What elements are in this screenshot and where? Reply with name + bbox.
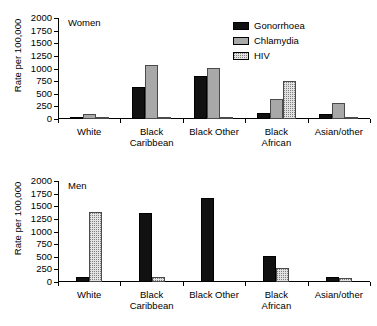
bar-chlamydia-black-other: [207, 68, 220, 120]
y-tick-label: 750: [12, 238, 52, 249]
x-axis-category-label: White: [77, 289, 101, 300]
bar-chlamydia-black-african: [270, 99, 283, 119]
bar-gonorrhoea-black-other: [194, 76, 207, 119]
x-axis-category-label: Black African: [262, 126, 292, 148]
y-tick-label: 1500: [12, 37, 52, 48]
y-tick-label: 2000: [12, 12, 52, 23]
bar-hiv-black-caribbean: [158, 117, 171, 119]
bar-gonorrhoea-black-african: [257, 113, 270, 119]
x-tick-mark: [58, 282, 59, 286]
bar-hiv-black-other: [220, 117, 233, 119]
bar-group: [245, 18, 307, 119]
bar-hiv-asian-other: [345, 117, 358, 119]
x-axis-category-label: Asian/other: [315, 289, 363, 300]
bar-gonorrhoea-asian-other: [319, 114, 332, 119]
plot-area-men: 025050075010001250150017502000: [58, 181, 370, 282]
y-tick-label: 1750: [12, 25, 52, 36]
bar-gonorrhoea-black-african: [263, 256, 276, 282]
x-axis-category-label: Black Caribbean: [130, 126, 174, 148]
y-tick-label: 0: [12, 276, 52, 287]
x-tick-mark: [370, 119, 371, 123]
panel-women: Rate per 100,000 Women Gonorrhoea Chlamy…: [0, 0, 377, 163]
y-tick-label: 250: [12, 263, 52, 274]
bar-group: [308, 181, 370, 282]
bar-chlamydia-asian-other: [332, 103, 345, 119]
bar-group: [183, 18, 245, 119]
x-tick-mark: [245, 119, 246, 123]
bar-hiv-black-caribbean: [152, 277, 165, 282]
bar-group: [58, 181, 120, 282]
y-tick-label: 0: [12, 113, 52, 124]
x-tick-mark: [370, 282, 371, 286]
bar-gonorrhoea-asian-other: [326, 277, 339, 282]
x-tick-mark: [245, 282, 246, 286]
x-axis-category-label: Black Other: [189, 126, 239, 137]
x-tick-mark: [308, 119, 309, 123]
bar-group: [120, 181, 182, 282]
bar-gonorrhoea-black-caribbean: [139, 213, 152, 282]
bar-gonorrhoea-white: [70, 117, 83, 119]
bar-hiv-asian-other: [339, 278, 352, 282]
bar-group: [245, 181, 307, 282]
bar-chlamydia-black-caribbean: [145, 65, 158, 119]
y-tick-label: 500: [12, 88, 52, 99]
bar-gonorrhoea-black-caribbean: [132, 87, 145, 119]
bar-chlamydia-white: [83, 114, 96, 119]
y-tick-label: 1000: [12, 226, 52, 237]
x-tick-mark: [120, 282, 121, 286]
bar-hiv-white: [96, 117, 109, 119]
bar-group: [120, 18, 182, 119]
bar-hiv-black-african: [276, 268, 289, 282]
y-tick-label: 1250: [12, 213, 52, 224]
x-tick-mark: [58, 119, 59, 123]
y-tick-label: 500: [12, 251, 52, 262]
bar-gonorrhoea-black-other: [201, 198, 214, 282]
bar-gonorrhoea-white: [76, 277, 89, 282]
bar-group: [183, 181, 245, 282]
panel-men: Rate per 100,000 Men 0250500750100012501…: [0, 163, 377, 326]
figure-stacked-bar-charts: Rate per 100,000 Women Gonorrhoea Chlamy…: [0, 0, 377, 326]
y-tick-label: 2000: [12, 175, 52, 186]
x-tick-mark: [183, 119, 184, 123]
bar-hiv-white: [89, 212, 102, 282]
y-tick-label: 1750: [12, 188, 52, 199]
y-tick-label: 750: [12, 75, 52, 86]
x-axis-category-label: Black African: [262, 289, 292, 311]
x-axis-category-label: Black Other: [189, 289, 239, 300]
y-tick-label: 250: [12, 100, 52, 111]
x-tick-mark: [308, 282, 309, 286]
x-axis-category-label: Black Caribbean: [130, 289, 174, 311]
y-tick-label: 1250: [12, 50, 52, 61]
x-axis-category-label: White: [77, 126, 101, 137]
plot-area-women: 025050075010001250150017502000: [58, 18, 370, 119]
x-tick-mark: [183, 282, 184, 286]
x-tick-mark: [120, 119, 121, 123]
bar-hiv-black-african: [283, 81, 296, 119]
y-tick-label: 1500: [12, 200, 52, 211]
bar-group: [58, 18, 120, 119]
x-axis-category-label: Asian/other: [315, 126, 363, 137]
bar-group: [308, 18, 370, 119]
y-tick-label: 1000: [12, 63, 52, 74]
